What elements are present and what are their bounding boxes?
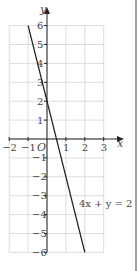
x-tick-label: 2	[82, 142, 88, 153]
x-tick-label: −2	[2, 142, 17, 153]
y-tick-label: −2	[32, 171, 47, 182]
origin-label: O	[37, 141, 46, 154]
x-axis-label: x	[117, 137, 124, 150]
x-tick-label: 3	[101, 142, 107, 153]
y-tick-label: 5	[37, 39, 43, 50]
y-axis-label: y	[39, 3, 47, 16]
x-tick-label: −1	[21, 142, 36, 153]
equation-label: 4x + y = 2	[79, 198, 133, 209]
y-tick-label: −3	[32, 190, 47, 201]
axes	[9, 7, 124, 252]
y-tick-label: −4	[32, 209, 47, 220]
y-tick-label: 2	[37, 96, 43, 107]
y-tick-label: −1	[32, 152, 47, 163]
y-tick-label: 6	[37, 20, 43, 31]
coordinate-plot: −2−1123−6−5−4−3−2−1123456 y x O 4x + y =…	[0, 0, 137, 271]
y-tick-label: 1	[37, 115, 43, 126]
y-tick-label: −5	[32, 228, 47, 239]
x-tick-label: 1	[63, 142, 69, 153]
y-tick-label: −6	[32, 247, 47, 258]
